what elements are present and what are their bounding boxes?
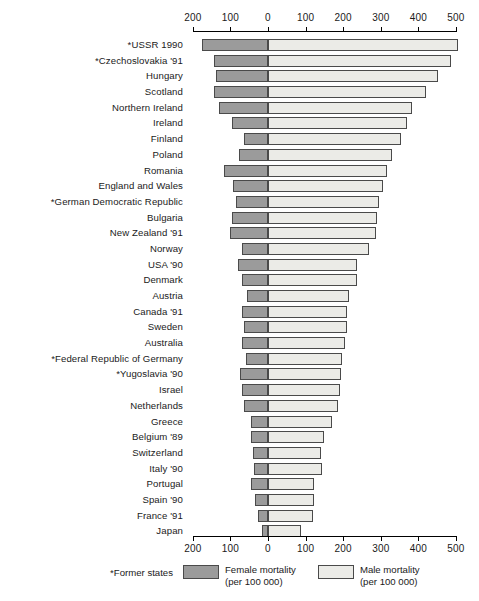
bar-female-mortality bbox=[238, 259, 268, 271]
bar-male-mortality bbox=[268, 70, 438, 82]
axis-tick bbox=[381, 536, 382, 541]
bar-male-mortality bbox=[268, 227, 376, 239]
legend-label: Male mortality(per 100 000) bbox=[360, 564, 420, 588]
chart-row: Italy '90 bbox=[0, 462, 479, 478]
axis-tick bbox=[343, 536, 344, 541]
row-label: *USSR 1990 bbox=[128, 39, 183, 51]
bar-male-mortality bbox=[268, 478, 314, 490]
bar-female-mortality bbox=[242, 243, 268, 255]
chart-row: Greece bbox=[0, 415, 479, 431]
legend-label-line2: (per 100 000) bbox=[225, 576, 296, 588]
row-label: *Czechoslovakia '91 bbox=[95, 55, 183, 67]
row-label: New Zealand '91 bbox=[110, 227, 183, 239]
bar-female-mortality bbox=[251, 416, 268, 428]
bar-female-mortality bbox=[244, 321, 268, 333]
axis-tick-label: 300 bbox=[361, 543, 401, 554]
chart-rows: *USSR 1990*Czechoslovakia '91HungaryScot… bbox=[0, 38, 479, 540]
bar-female-mortality bbox=[214, 86, 268, 98]
axis-top: 2001000100200300400500 bbox=[193, 12, 456, 36]
chart-row: England and Wales bbox=[0, 179, 479, 195]
chart-row: Denmark bbox=[0, 273, 479, 289]
bar-male-mortality bbox=[268, 196, 379, 208]
bar-female-mortality bbox=[216, 70, 268, 82]
bar-female-mortality bbox=[247, 290, 268, 302]
chart-legend: Female mortality(per 100 000)Male mortal… bbox=[183, 564, 420, 588]
bar-female-mortality bbox=[219, 102, 268, 114]
bar-male-mortality bbox=[268, 431, 324, 443]
chart-row: France '91 bbox=[0, 509, 479, 525]
bar-male-mortality bbox=[268, 39, 458, 51]
bar-male-mortality bbox=[268, 243, 369, 255]
bar-female-mortality bbox=[251, 431, 268, 443]
bar-female-mortality bbox=[244, 133, 268, 145]
bar-female-mortality bbox=[258, 510, 268, 522]
bar-male-mortality bbox=[268, 102, 412, 114]
axis-tick-label: 200 bbox=[323, 543, 363, 554]
bar-male-mortality bbox=[268, 290, 349, 302]
chart-row: *USSR 1990 bbox=[0, 38, 479, 54]
axis-tick-label: 500 bbox=[436, 543, 476, 554]
axis-tick bbox=[381, 27, 382, 32]
row-label: Poland bbox=[153, 149, 183, 161]
bar-male-mortality bbox=[268, 400, 338, 412]
chart-row: New Zealand '91 bbox=[0, 226, 479, 242]
chart-row: *Federal Republic of Germany bbox=[0, 352, 479, 368]
row-label: Switzerland bbox=[132, 447, 183, 459]
axis-tick bbox=[230, 536, 231, 541]
axis-tick-label: 100 bbox=[286, 12, 326, 23]
axis-tick-label: 100 bbox=[286, 543, 326, 554]
legend-label-line1: Male mortality bbox=[360, 564, 420, 576]
row-label: Canada '91 bbox=[133, 306, 183, 318]
axis-tick bbox=[268, 536, 269, 541]
chart-row: Portugal bbox=[0, 477, 479, 493]
chart-row: Canada '91 bbox=[0, 305, 479, 321]
bar-female-mortality bbox=[233, 180, 268, 192]
axis-tick bbox=[456, 536, 457, 541]
bar-female-mortality bbox=[224, 165, 268, 177]
footnote: *Former states bbox=[0, 567, 173, 579]
bar-male-mortality bbox=[268, 306, 347, 318]
row-label: Bulgaria bbox=[147, 212, 183, 224]
bar-female-mortality bbox=[244, 400, 268, 412]
axis-tick bbox=[193, 27, 194, 32]
row-label: Northern Ireland bbox=[112, 102, 183, 114]
chart-row: Australia bbox=[0, 336, 479, 352]
bar-female-mortality bbox=[242, 337, 268, 349]
bar-female-mortality bbox=[242, 274, 268, 286]
bar-female-mortality bbox=[232, 117, 268, 129]
chart-row: Hungary bbox=[0, 69, 479, 85]
row-label: Romania bbox=[144, 165, 183, 177]
axis-tick-label: 200 bbox=[173, 12, 213, 23]
chart-row: Bulgaria bbox=[0, 211, 479, 227]
bar-male-mortality bbox=[268, 337, 345, 349]
bar-male-mortality bbox=[268, 55, 451, 67]
bar-male-mortality bbox=[268, 133, 401, 145]
bar-male-mortality bbox=[268, 212, 377, 224]
row-label: England and Wales bbox=[98, 180, 183, 192]
bar-male-mortality bbox=[268, 447, 321, 459]
bar-male-mortality bbox=[268, 149, 392, 161]
row-label: Japan bbox=[156, 525, 183, 537]
axis-tick-label: 300 bbox=[361, 12, 401, 23]
row-label: USA '90 bbox=[148, 259, 183, 271]
row-label: Netherlands bbox=[130, 400, 183, 412]
legend-item: Female mortality(per 100 000) bbox=[183, 564, 296, 588]
row-label: Austria bbox=[152, 290, 183, 302]
chart-row: *Yugoslavia '90 bbox=[0, 367, 479, 383]
chart-row: Sweden bbox=[0, 320, 479, 336]
axis-tick-label: 0 bbox=[248, 12, 288, 23]
axis-tick-label: 400 bbox=[398, 12, 438, 23]
bar-male-mortality bbox=[268, 259, 357, 271]
axis-tick bbox=[418, 536, 419, 541]
row-label: Greece bbox=[151, 416, 183, 428]
row-label: Spain '90 bbox=[142, 494, 183, 506]
bar-male-mortality bbox=[268, 510, 313, 522]
axis-tick bbox=[230, 27, 231, 32]
legend-label-line1: Female mortality bbox=[225, 564, 296, 576]
axis-tick-label: 100 bbox=[210, 12, 250, 23]
bar-male-mortality bbox=[268, 353, 342, 365]
bar-female-mortality bbox=[251, 478, 268, 490]
bar-female-mortality bbox=[239, 149, 268, 161]
bar-male-mortality bbox=[268, 86, 426, 98]
axis-tick bbox=[193, 536, 194, 541]
